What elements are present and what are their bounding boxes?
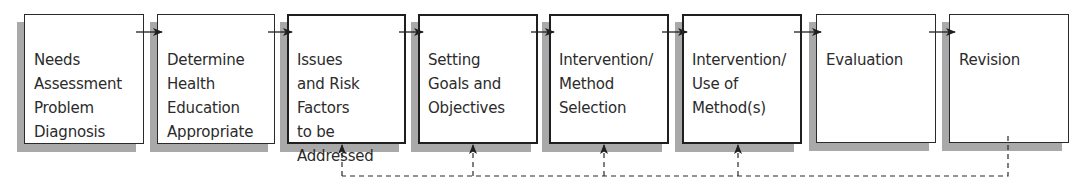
- step-setting-goals: Setting Goals and Objectives: [418, 14, 538, 144]
- step-label: Needs Assessment Problem Diagnosis: [34, 48, 143, 144]
- step-needs-assessment: Needs Assessment Problem Diagnosis: [24, 14, 144, 144]
- step-revision: Revision: [949, 14, 1069, 143]
- step-label: Setting Goals and Objectives: [428, 48, 536, 120]
- step-label: Intervention/ Use of Method(s): [692, 48, 800, 120]
- step-issues-risk-factors: Issues and Risk Factors to be Addressed: [287, 14, 406, 144]
- step-intervention-use-of-methods: Intervention/ Use of Method(s): [682, 14, 802, 144]
- flow-diagram: Needs Assessment Problem Diagnosis Deter…: [0, 0, 1086, 191]
- step-label: Issues and Risk Factors to be Addressed: [297, 48, 404, 168]
- step-label: Evaluation: [826, 48, 935, 72]
- step-label: Intervention/ Method Selection: [559, 48, 667, 120]
- step-label: Revision: [959, 48, 1068, 72]
- step-evaluation: Evaluation: [816, 14, 936, 143]
- step-label: Determine Health Education Appropriate: [167, 48, 274, 144]
- step-intervention-method-selection: Intervention/ Method Selection: [549, 14, 669, 144]
- step-determine-health-education: Determine Health Education Appropriate: [157, 14, 275, 144]
